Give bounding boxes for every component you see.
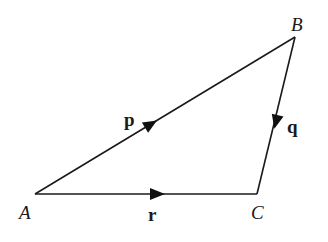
diagram-svg: A B C p q r bbox=[0, 0, 328, 242]
arrow-p-icon bbox=[142, 115, 160, 133]
edge-ab-vector-p bbox=[35, 37, 295, 194]
vertex-label-c: C bbox=[251, 202, 264, 223]
vector-label-p: p bbox=[124, 109, 135, 130]
vertex-label-b: B bbox=[291, 14, 303, 35]
arrow-r-icon bbox=[150, 188, 165, 200]
vertex-label-a: A bbox=[17, 202, 31, 223]
vector-label-r: r bbox=[148, 204, 157, 225]
vector-label-q: q bbox=[287, 116, 298, 137]
vector-triangle-diagram: A B C p q r bbox=[0, 0, 328, 242]
arrow-q-icon bbox=[269, 114, 284, 130]
